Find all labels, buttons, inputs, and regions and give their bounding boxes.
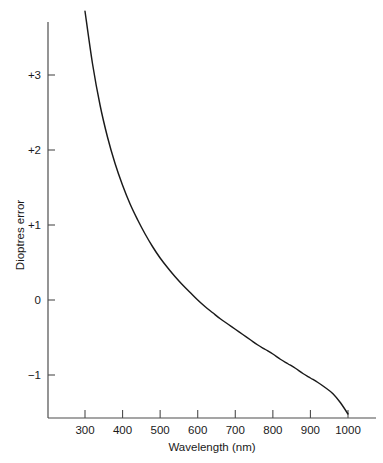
- x-tick-label: 900: [301, 424, 320, 436]
- chart-plot-area: −10+1+2+3 3004005006007008009001000 Wave…: [0, 0, 383, 463]
- x-tick-label: 1000: [335, 424, 361, 436]
- x-tick-label: 300: [75, 424, 94, 436]
- data-curve-chromatic-aberration: [85, 11, 348, 414]
- x-tick-label: 400: [113, 424, 132, 436]
- x-axis-ticks: 3004005006007008009001000: [75, 410, 360, 436]
- y-tick-label: +1: [28, 219, 41, 231]
- chart-figure: −10+1+2+3 3004005006007008009001000 Wave…: [0, 0, 383, 463]
- y-axis-title: Dioptres error: [14, 200, 26, 270]
- y-tick-label: 0: [35, 294, 41, 306]
- y-tick-label: +2: [28, 144, 41, 156]
- x-tick-label: 800: [263, 424, 282, 436]
- x-tick-label: 600: [188, 424, 207, 436]
- x-tick-label: 700: [226, 424, 245, 436]
- y-axis-ticks: −10+1+2+3: [28, 69, 55, 381]
- y-tick-label: −1: [28, 369, 41, 381]
- x-axis-title: Wavelength (nm): [168, 441, 255, 453]
- y-tick-label: +3: [28, 69, 41, 81]
- x-tick-label: 500: [151, 424, 170, 436]
